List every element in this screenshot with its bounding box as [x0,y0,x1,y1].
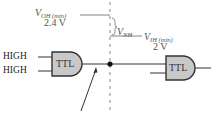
gate-2-label: TTL [169,62,187,73]
vih-min-value: 2 V [153,41,168,52]
input-label-2: HIGH [3,65,27,75]
vnh-label: VNH [117,21,132,39]
junction-node [107,61,112,66]
voh-min-value: 2.4 V [44,17,66,28]
gate-1-label: TTL [56,58,74,69]
ttl-noise-margin-diagram [0,0,219,117]
pointer-arrow [81,69,96,111]
input-label-1: HIGH [3,51,27,61]
